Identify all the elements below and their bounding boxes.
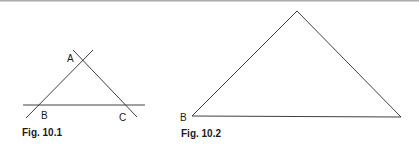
line-ac — [73, 50, 137, 117]
label-a: A — [67, 53, 74, 64]
label-b: B — [180, 112, 187, 123]
figure-10-2: B Fig. 10.2 — [180, 11, 401, 139]
figure-10-1: A B C Fig. 10.1 — [22, 50, 145, 138]
label-c: C — [119, 112, 126, 123]
label-b: B — [41, 110, 48, 121]
diagram-canvas: A B C Fig. 10.1 B Fig. 10.2 — [0, 0, 419, 146]
caption-fig-10-1: Fig. 10.1 — [22, 127, 62, 138]
caption-fig-10-2: Fig. 10.2 — [181, 128, 221, 139]
triangle — [192, 11, 401, 117]
